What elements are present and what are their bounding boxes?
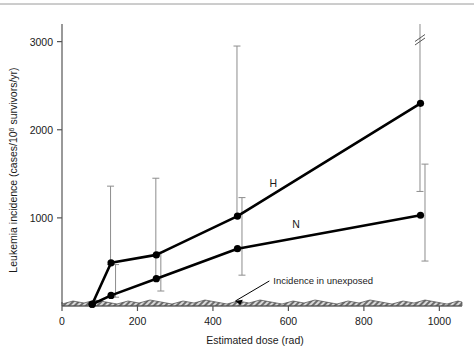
data-point <box>153 275 160 282</box>
y-axis-title-pre: Leukemia incidence (cases/10 <box>7 131 19 272</box>
x-tick-label: 1000 <box>428 315 452 327</box>
data-point <box>234 245 241 252</box>
series-labels: HN <box>270 177 300 230</box>
x-tick-label: 400 <box>204 315 222 327</box>
data-point <box>234 213 241 220</box>
leukemia-incidence-chart: 10002000300002004006008001000 HN Inciden… <box>0 0 474 352</box>
y-axis-title: Leukemia incidence (cases/106 survivors/… <box>7 67 19 272</box>
y-tick-label: 2000 <box>30 124 54 136</box>
series-label-n: N <box>292 218 300 230</box>
series-label-h: H <box>270 177 278 189</box>
data-point <box>89 301 96 308</box>
data-point <box>107 259 114 266</box>
axes: 10002000300002004006008001000 <box>30 24 462 327</box>
annotations: Incidence in unexposed <box>235 275 373 305</box>
x-axis-title: Estimated dose (rad) <box>206 334 303 346</box>
band-annotation-leader <box>235 281 269 301</box>
data-point <box>417 212 424 219</box>
x-tick-label: 600 <box>280 315 298 327</box>
figure: 10002000300002004006008001000 HN Inciden… <box>0 0 474 352</box>
y-tick-label: 1000 <box>30 212 54 224</box>
data-point <box>153 251 160 258</box>
svg-text:Leukemia incidence (cases/106: Leukemia incidence (cases/106 survivors/… <box>7 67 19 272</box>
band-annotation-label: Incidence in unexposed <box>273 275 373 286</box>
x-tick-label: 800 <box>355 315 373 327</box>
y-tick-label: 3000 <box>30 36 54 48</box>
x-tick-label: 0 <box>59 315 65 327</box>
y-axis-title-post: survivors/yr) <box>7 67 19 127</box>
x-tick-label: 200 <box>129 315 147 327</box>
unexposed-incidence-band <box>62 300 462 306</box>
series-line-n <box>92 215 420 304</box>
data-point <box>417 100 424 107</box>
data-point <box>107 292 114 299</box>
